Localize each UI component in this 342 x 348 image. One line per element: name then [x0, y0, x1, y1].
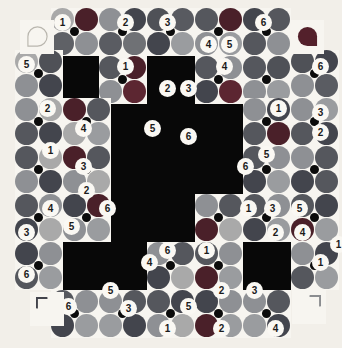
tile-center-dot [262, 75, 271, 84]
tile-center-dot [214, 27, 223, 36]
number-badge[interactable]: 1 [270, 100, 287, 117]
number-badge[interactable]: 6 [237, 158, 254, 175]
tile-quadrant [315, 146, 338, 169]
number-badge[interactable]: 5 [144, 120, 161, 137]
number-badge[interactable]: 3 [159, 14, 176, 31]
number-badge[interactable]: 6 [255, 14, 272, 31]
number-badge[interactable]: 2 [39, 100, 56, 117]
number-badge[interactable]: 1 [312, 254, 329, 271]
number-badge[interactable]: 3 [18, 224, 35, 241]
number-badge[interactable]: 3 [180, 80, 197, 97]
number-badge[interactable]: 5 [291, 200, 308, 217]
number-badge[interactable]: 1 [42, 142, 59, 159]
teardrop-solid-icon [296, 25, 319, 48]
corner-marker-top-right[interactable] [290, 20, 324, 54]
tile-center-dot [214, 309, 223, 318]
tile-quadrant [243, 314, 266, 337]
tile-center-dot [214, 213, 223, 222]
number-badge[interactable]: 2 [213, 282, 230, 299]
number-badge[interactable]: 4 [141, 254, 158, 271]
number-badge[interactable]: 2 [117, 14, 134, 31]
tile-quadrant [39, 266, 62, 289]
number-badge[interactable]: 3 [120, 300, 137, 317]
number-badge[interactable]: 3 [246, 282, 263, 299]
tile-center-dot [166, 261, 175, 270]
tile-quadrant [243, 218, 266, 241]
tile-quadrant [15, 74, 38, 97]
number-badge[interactable]: 6 [159, 242, 176, 259]
number-badge[interactable]: 5 [63, 218, 80, 235]
tile-quadrant [123, 32, 146, 55]
number-badge[interactable]: 1 [54, 14, 71, 31]
number-badge[interactable]: 2 [267, 224, 284, 241]
number-badge[interactable]: 2 [78, 182, 95, 199]
puzzle-board[interactable]: 1236455146223314562136524561353146126453… [0, 0, 342, 348]
tile-quadrant [291, 170, 314, 193]
number-badge[interactable]: 6 [312, 58, 329, 75]
tile-center-dot [34, 165, 43, 174]
number-badge[interactable]: 5 [221, 36, 238, 53]
puzzle-tile[interactable] [291, 146, 339, 194]
puzzle-tile[interactable] [195, 194, 243, 242]
tile-quadrant [39, 74, 62, 97]
number-badge[interactable]: 6 [18, 266, 35, 283]
tile-quadrant [75, 290, 98, 313]
number-badge[interactable]: 2 [312, 124, 329, 141]
number-badge[interactable]: 4 [75, 120, 92, 137]
corner-marker-bottom-right[interactable] [292, 290, 326, 324]
number-badge[interactable]: 4 [267, 320, 284, 337]
tile-quadrant [267, 170, 290, 193]
tile-quadrant [219, 8, 242, 31]
number-badge[interactable]: 3 [264, 200, 281, 217]
tile-quadrant [291, 122, 314, 145]
number-badge[interactable]: 1 [240, 200, 257, 217]
teardrop-outline-icon [26, 25, 49, 48]
tile-quadrant [87, 218, 110, 241]
tile-center-dot [262, 309, 271, 318]
number-badge[interactable]: 4 [200, 36, 217, 53]
number-badge[interactable]: 4 [216, 58, 233, 75]
tile-center-dot [310, 165, 319, 174]
number-badge[interactable]: 4 [42, 200, 59, 217]
number-badge[interactable]: 2 [159, 80, 176, 97]
number-badge[interactable]: 3 [75, 158, 92, 175]
tile-quadrant [315, 170, 338, 193]
number-badge[interactable]: 3 [312, 104, 329, 121]
number-badge[interactable]: 1 [330, 236, 342, 253]
number-badge[interactable]: 6 [99, 200, 116, 217]
tile-quadrant [147, 32, 170, 55]
corner-marker-top-left[interactable] [20, 20, 54, 54]
number-badge[interactable]: 5 [258, 146, 275, 163]
number-badge[interactable]: 2 [213, 320, 230, 337]
number-badge[interactable]: 1 [159, 320, 176, 337]
teardrop-solid-icon [36, 297, 59, 320]
tile-quadrant [123, 80, 146, 103]
tile-center-dot [34, 213, 43, 222]
puzzle-tile[interactable] [243, 56, 291, 104]
tile-quadrant [315, 74, 338, 97]
tile-quadrant [219, 194, 242, 217]
tile-center-dot [262, 117, 271, 126]
puzzle-tile[interactable] [291, 50, 339, 98]
tile-quadrant [195, 218, 218, 241]
tile-quadrant [75, 314, 98, 337]
tile-center-dot [262, 165, 271, 174]
tile-quadrant [267, 32, 290, 55]
number-badge[interactable]: 1 [117, 58, 134, 75]
tile-quadrant [315, 194, 338, 217]
tile-center-dot [310, 213, 319, 222]
number-badge[interactable]: 1 [198, 242, 215, 259]
tile-center-dot [214, 75, 223, 84]
tile-quadrant [39, 170, 62, 193]
corner-marker-bottom-left[interactable] [30, 292, 64, 326]
number-badge[interactable]: 5 [18, 56, 35, 73]
tile-quadrant [39, 218, 62, 241]
number-badge[interactable]: 6 [180, 128, 197, 145]
number-badge[interactable]: 5 [102, 282, 119, 299]
tile-center-dot [34, 117, 43, 126]
number-badge[interactable]: 4 [294, 224, 311, 241]
tile-quadrant [75, 8, 98, 31]
tile-quadrant [99, 32, 122, 55]
number-badge[interactable]: 5 [180, 298, 197, 315]
tile-center-dot [70, 27, 79, 36]
